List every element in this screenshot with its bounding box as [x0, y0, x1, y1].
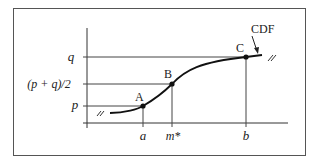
- x-label-a: a: [140, 128, 147, 143]
- point-b-marker: [169, 81, 174, 86]
- right-break-mark-icon: [268, 55, 276, 61]
- point-a-marker: [140, 103, 145, 108]
- x-label-m-star: m*: [166, 129, 181, 143]
- cdf-pointer-arrow-icon: [252, 36, 259, 54]
- point-c-marker: [243, 54, 248, 59]
- point-a-label: A: [135, 90, 144, 104]
- point-b-label: B: [164, 67, 172, 81]
- left-break-mark-icon: [97, 111, 104, 116]
- point-c-label: C: [236, 41, 244, 55]
- x-label-b: b: [243, 128, 250, 143]
- cdf-diagram: A B C CDF q (p + q)/2 p a m* b: [0, 0, 320, 164]
- y-label-p: p: [71, 97, 79, 112]
- y-label-midpoint: (p + q)/2: [27, 77, 70, 91]
- y-label-q: q: [68, 49, 75, 64]
- cdf-label: CDF: [251, 22, 275, 36]
